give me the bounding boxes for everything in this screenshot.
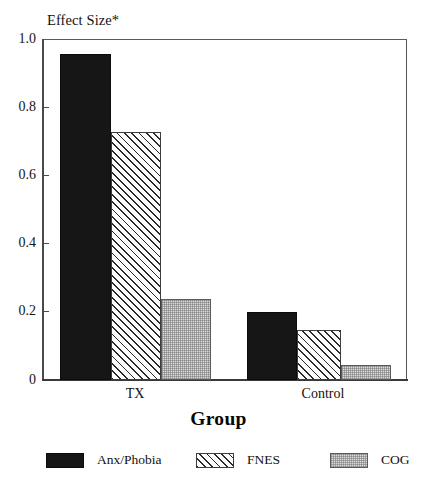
legend-label-fnes: FNES xyxy=(247,452,280,468)
bar-tx-anx-phobia xyxy=(60,54,111,380)
legend-item-cog: COG xyxy=(330,449,410,471)
y-axis-title: Effect Size* xyxy=(47,12,119,29)
legend-label-anx-phobia: Anx/Phobia xyxy=(97,452,162,468)
chart-legend: Anx/Phobia FNES COG xyxy=(0,449,437,475)
bar-tx-cog xyxy=(161,299,211,380)
bar-control-fnes xyxy=(297,330,341,380)
y-axis-line xyxy=(42,39,44,381)
x-tick-label-control: Control xyxy=(288,386,358,402)
legend-item-fnes: FNES xyxy=(196,449,280,471)
legend-swatch-anx-phobia-icon xyxy=(46,453,84,468)
y-tick-mark-0-2 xyxy=(42,311,49,312)
x-tick-label-tx: TX xyxy=(105,386,165,402)
x-axis-title: Group xyxy=(0,408,437,430)
bar-control-cog xyxy=(341,365,391,380)
legend-swatch-fnes-icon xyxy=(196,453,234,468)
y-tick-mark-0-6 xyxy=(42,175,49,176)
y-tick-label-0-8: 0.8 xyxy=(2,100,36,114)
bar-control-anx-phobia xyxy=(247,312,297,380)
bar-tx-fnes xyxy=(111,132,161,380)
bar-chart-figure: Effect Size* 1.0 0.8 0.6 0.4 0.2 0 TX Co… xyxy=(0,0,437,485)
y-tick-label-0-2: 0.2 xyxy=(2,304,36,318)
legend-swatch-cog-icon xyxy=(330,453,368,468)
y-tick-label-0-6: 0.6 xyxy=(2,168,36,182)
y-tick-mark-0-8 xyxy=(42,107,49,108)
y-tick-label-0-4: 0.4 xyxy=(2,236,36,250)
y-tick-mark-0-4 xyxy=(42,243,49,244)
y-tick-label-1-0: 1.0 xyxy=(2,32,36,46)
legend-item-anx-phobia: Anx/Phobia xyxy=(46,449,162,471)
y-tick-label-0: 0 xyxy=(2,373,36,387)
legend-label-cog: COG xyxy=(381,452,410,468)
